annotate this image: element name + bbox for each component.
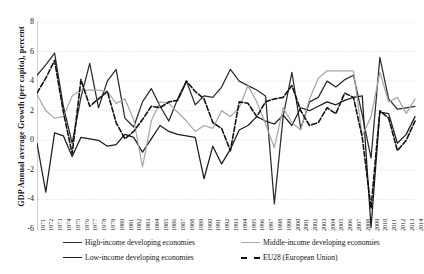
y-tick-label: -6 xyxy=(18,225,34,233)
plot-area xyxy=(37,22,416,230)
x-tick-label: 2005 xyxy=(338,201,344,231)
x-tick-label: 2002 xyxy=(312,201,318,231)
y-tick-label: 0 xyxy=(18,136,34,144)
x-tick-label: 2003 xyxy=(321,201,327,231)
y-tick-label: -4 xyxy=(18,195,34,203)
x-tick-label: 1974 xyxy=(66,201,72,231)
x-tick-label: 1997 xyxy=(268,201,274,231)
legend-item-high-income: High-income developing economies xyxy=(63,238,195,247)
legend-label: Middle-income developing economies xyxy=(263,238,380,247)
chart-legend: High-income developing economies Low-inc… xyxy=(37,236,416,274)
x-tick-label: 1972 xyxy=(48,201,54,231)
x-tick-label: 2001 xyxy=(303,201,309,231)
legend-item-middle-income: Middle-income developing economies xyxy=(241,238,380,247)
x-tick-label: 1981 xyxy=(128,201,134,231)
y-tick-label: 2 xyxy=(18,107,34,115)
x-tick-label: 1975 xyxy=(75,201,81,231)
x-tick-label: 2007 xyxy=(356,201,362,231)
x-tick-label: 1998 xyxy=(277,201,283,231)
x-tick-label: 2010 xyxy=(382,201,388,231)
y-tick-label: 6 xyxy=(18,48,34,56)
x-tick-label: 1985 xyxy=(163,201,169,231)
x-tick-label: 2014 xyxy=(418,201,424,231)
x-tick-label: 1996 xyxy=(259,201,265,231)
x-tick-label: 1994 xyxy=(242,201,248,231)
x-tick-label: 1976 xyxy=(84,201,90,231)
legend-swatch-line-icon xyxy=(241,257,260,259)
x-tick-label: 1971 xyxy=(40,201,46,231)
legend-label: High-income developing economies xyxy=(85,238,195,247)
x-tick-label: 1986 xyxy=(171,201,177,231)
x-tick-label: 1977 xyxy=(92,201,98,231)
legend-item-low-income: Low-income developing economies xyxy=(63,253,194,262)
x-tick-label: 1983 xyxy=(145,201,151,231)
y-tick-label: 4 xyxy=(18,77,34,85)
x-tick-label: 1989 xyxy=(198,201,204,231)
x-tick-label: 1999 xyxy=(286,201,292,231)
x-tick-label: 1988 xyxy=(189,201,195,231)
x-tick-label: 1979 xyxy=(110,201,116,231)
legend-swatch-line-icon xyxy=(63,242,82,243)
x-tick-label: 1992 xyxy=(224,201,230,231)
x-tick-label: 1995 xyxy=(251,201,257,231)
x-tick-label: 1993 xyxy=(233,201,239,231)
y-axis-tick-labels: 86420-2-4-6 xyxy=(14,22,34,230)
y-tick-label: -2 xyxy=(18,166,34,174)
legend-label: EU28 (European Union) xyxy=(263,253,338,262)
x-tick-label: 1973 xyxy=(57,201,63,231)
x-tick-label: 1984 xyxy=(154,201,160,231)
x-tick-label: 2009 xyxy=(374,201,380,231)
x-tick-label: 2006 xyxy=(347,201,353,231)
y-tick-label: 8 xyxy=(18,18,34,26)
x-tick-label: 1982 xyxy=(136,201,142,231)
x-tick-label: 2000 xyxy=(295,201,301,231)
x-tick-label: 1978 xyxy=(101,201,107,231)
x-tick-label: 1990 xyxy=(207,201,213,231)
legend-label: Low-income developing economies xyxy=(85,253,194,262)
plot-svg xyxy=(37,22,416,230)
x-tick-label: 1980 xyxy=(119,201,125,231)
x-tick-label: 2012 xyxy=(400,201,406,231)
x-tick-label: 1991 xyxy=(215,201,221,231)
x-tick-label: 2013 xyxy=(409,201,415,231)
legend-swatch-line-icon xyxy=(63,257,82,258)
legend-item-eu28: EU28 (European Union) xyxy=(241,253,338,262)
series-line-0 xyxy=(37,53,415,204)
x-tick-label: 2008 xyxy=(365,201,371,231)
legend-swatch-line-icon xyxy=(241,242,260,243)
x-tick-label: 1987 xyxy=(180,201,186,231)
x-tick-label: 2004 xyxy=(330,201,336,231)
x-tick-label: 2011 xyxy=(391,201,397,231)
